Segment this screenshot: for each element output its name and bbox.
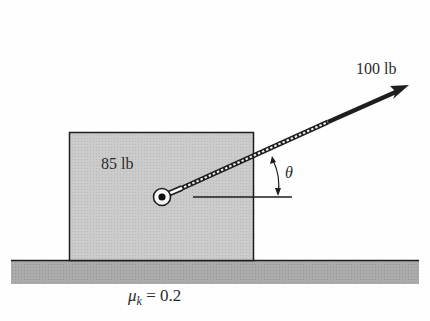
diagram: 85 lb 100 lb θ μk = 0.2 (0, 0, 430, 321)
angle-arc (270, 156, 281, 196)
force-magnitude-label: 100 lb (356, 60, 396, 78)
friction-coefficient-label: μk = 0.2 (128, 286, 181, 309)
mu-symbol: μ (128, 286, 137, 305)
angle-label: θ (285, 164, 293, 182)
force-arrow (328, 91, 398, 122)
block-weight-label: 85 lb (101, 155, 133, 173)
ground (11, 260, 419, 284)
diagram-graphics (0, 0, 430, 321)
mu-subscript: k (137, 294, 142, 308)
friction-value: = 0.2 (146, 286, 181, 305)
